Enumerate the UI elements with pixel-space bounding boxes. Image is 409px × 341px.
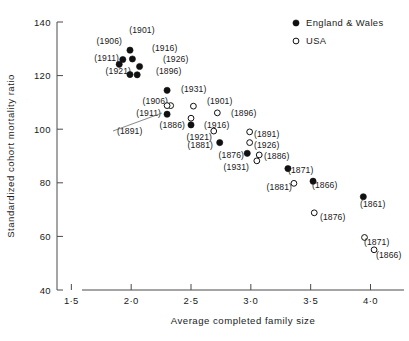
legend-label-england-wales[interactable]: England & Wales (306, 17, 384, 28)
data-point-england-wales-1901[interactable] (127, 47, 133, 53)
plot-canvas: 4060801001201401·52·02·53·03·54·0Average… (0, 0, 409, 341)
point-label-1911: (1911) (136, 108, 161, 118)
data-point-england-wales-1881[interactable] (217, 140, 223, 146)
y-tick-label: 100 (34, 124, 51, 135)
y-tick-label: 140 (34, 17, 51, 28)
point-label-1901: (1901) (207, 96, 232, 106)
data-point-england-wales-1926[interactable] (136, 63, 142, 69)
data-point-england-wales-1896[interactable] (134, 72, 140, 78)
data-point-usa-1891[interactable] (247, 129, 253, 135)
y-tick-label: 120 (34, 70, 51, 81)
point-label-1926: (1926) (254, 140, 279, 150)
point-label-1861: (1861) (360, 199, 385, 209)
data-point-england-wales-1886[interactable] (188, 122, 194, 128)
point-label-1871: (1871) (288, 165, 313, 175)
point-label-1921: (1921) (187, 132, 212, 142)
data-point-england-wales-1911[interactable] (164, 111, 170, 117)
point-label-1921: (1921) (106, 66, 131, 76)
point-label-1916: (1916) (152, 43, 177, 53)
point-label-1916: (1916) (204, 120, 229, 130)
point-label-1906: (1906) (97, 36, 122, 46)
point-label-1926: (1926) (163, 54, 188, 64)
data-point-usa-1916[interactable] (188, 115, 194, 121)
point-label-1896: (1896) (156, 66, 181, 76)
legend-marker-filled (293, 20, 299, 26)
y-tick-label: 80 (40, 177, 51, 188)
x-tick-label: 2·0 (124, 295, 139, 306)
x-tick-label: 3·5 (303, 295, 318, 306)
legend-label-usa[interactable]: USA (306, 35, 327, 46)
point-label-1891: (1891) (254, 129, 279, 139)
scatter-plot-figure: 4060801001201401·52·02·53·03·54·0Average… (0, 0, 409, 341)
data-point-england-wales-1931[interactable] (164, 87, 170, 93)
x-tick-label: 1·5 (64, 295, 79, 306)
point-label-1881: (1881) (267, 182, 292, 192)
data-point-usa-1901[interactable] (191, 103, 197, 109)
y-tick-label: 40 (40, 285, 51, 296)
legend-marker-open (293, 38, 299, 44)
point-label-1931: (1931) (181, 84, 206, 94)
data-point-england-wales-1916[interactable] (129, 56, 135, 62)
point-label-1886: (1886) (264, 151, 289, 161)
point-label-1876: (1876) (219, 150, 244, 160)
x-tick-label: 4·0 (363, 295, 378, 306)
y-axis-title: Standardized cohort mortality ratio (5, 74, 16, 238)
data-point-usa-1886[interactable] (256, 152, 262, 158)
point-label-1871: (1871) (364, 237, 389, 247)
point-label-1911: (1911) (94, 53, 119, 63)
data-point-usa-1891[interactable] (164, 103, 170, 109)
point-label-1866: (1866) (376, 250, 401, 260)
point-label-1876: (1876) (320, 212, 345, 222)
data-point-usa-1926[interactable] (247, 140, 253, 146)
x-tick-label: 2·5 (184, 295, 199, 306)
point-label-1901: (1901) (129, 25, 154, 35)
data-point-usa-1931[interactable] (254, 158, 260, 164)
data-point-usa-1876[interactable] (311, 210, 317, 216)
x-axis-title: Average completed family size (171, 315, 315, 326)
point-label-1886: (1886) (160, 120, 185, 130)
point-label-1931: (1931) (224, 162, 249, 172)
x-tick-label: 3·0 (243, 295, 258, 306)
y-tick-label: 60 (40, 231, 51, 242)
point-label-1896: (1896) (231, 108, 256, 118)
data-point-usa-1896[interactable] (214, 110, 220, 116)
point-label-1891: (1891) (117, 126, 142, 136)
point-label-1866: (1866) (312, 180, 337, 190)
data-point-england-wales-1876[interactable] (244, 150, 250, 156)
